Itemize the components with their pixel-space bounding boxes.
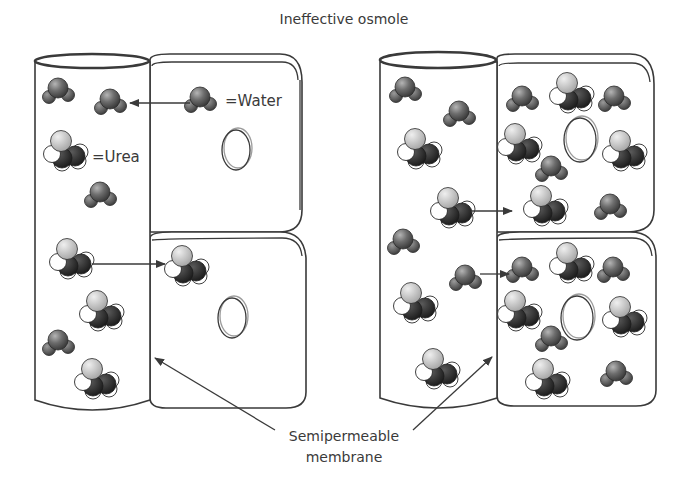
legend-water-label: =Water [225,92,283,110]
left-panel: =Water =Urea [35,54,306,410]
left-cell-upper [150,54,302,232]
membrane-caption-line1: Semipermeable [289,428,399,444]
right-panel [380,52,656,408]
left-vessel [35,54,150,410]
membrane-caption-line2: membrane [306,449,383,465]
diagram-canvas: Ineffective osmole [0,0,688,490]
diagram-title: Ineffective osmole [280,11,409,27]
legend-urea-label: =Urea [92,148,140,166]
